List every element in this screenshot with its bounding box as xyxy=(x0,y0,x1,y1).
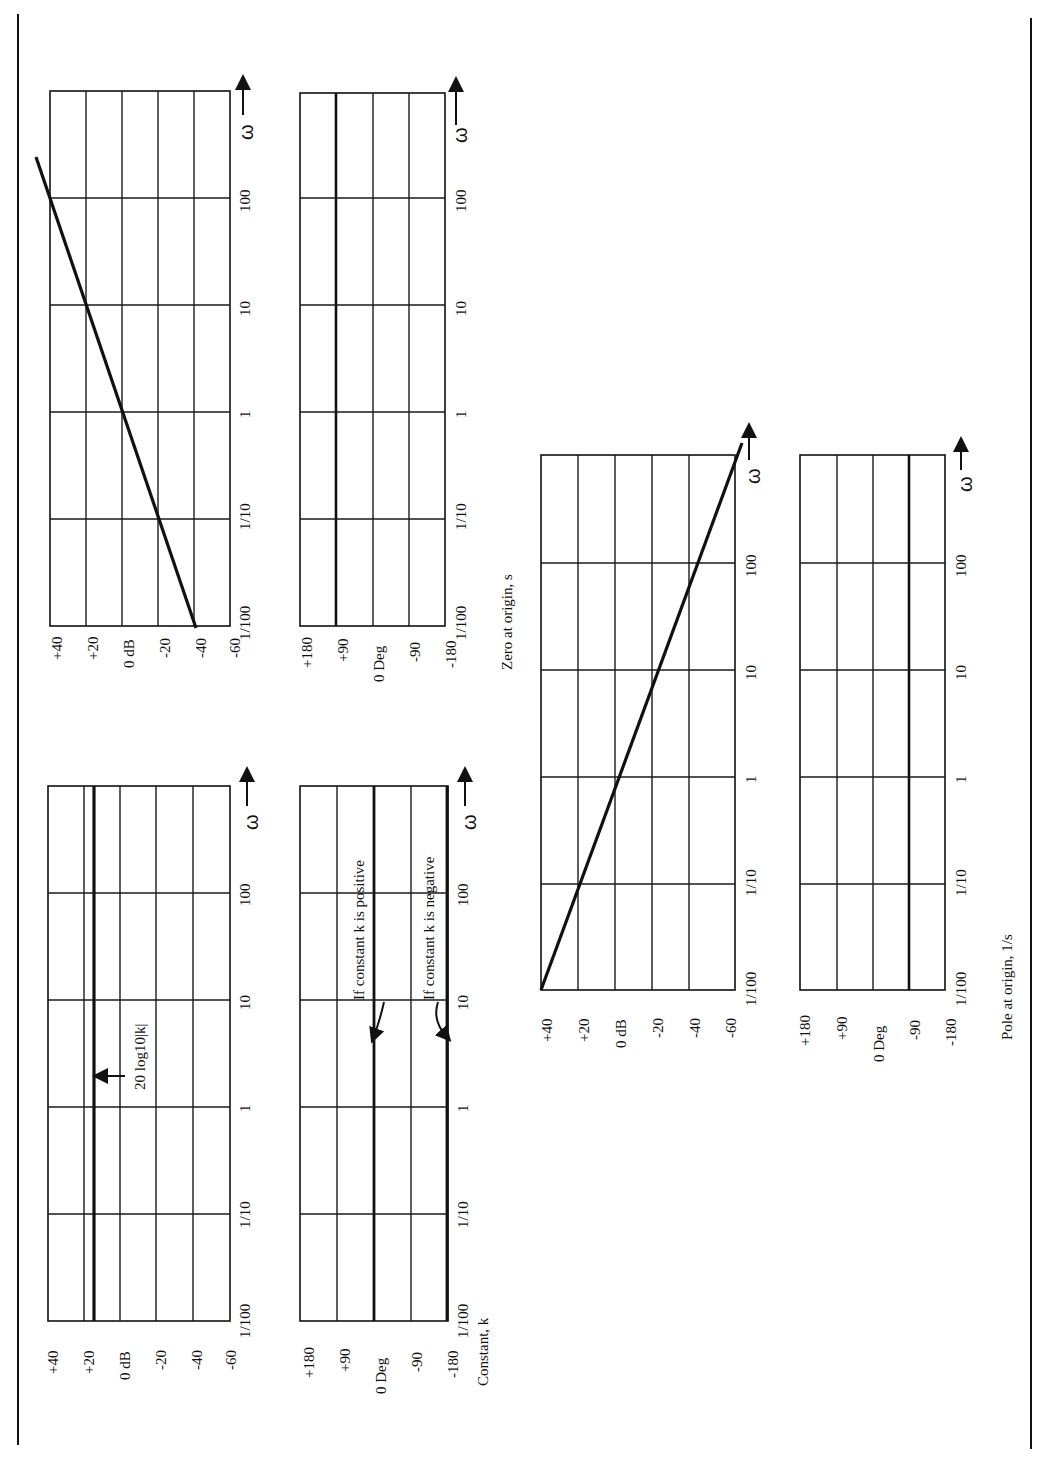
svg-text:1/100: 1/100 xyxy=(237,1304,253,1338)
pole-at-origin-magnitude-plot xyxy=(541,443,742,990)
omega-label: ω xyxy=(449,127,471,143)
svg-text:100: 100 xyxy=(453,190,469,213)
svg-text:-40: -40 xyxy=(687,1018,703,1038)
svg-text:+20: +20 xyxy=(85,637,101,660)
svg-text:1/100: 1/100 xyxy=(743,972,759,1006)
svg-text:1/100: 1/100 xyxy=(237,606,253,640)
svg-text:1: 1 xyxy=(237,1105,253,1113)
pole-at-origin-freq-ticks-phase: 1/100 1/10 1 10 100 xyxy=(953,555,969,1007)
svg-text:100: 100 xyxy=(237,190,253,213)
zero-at-origin-magnitude-plot xyxy=(36,91,230,628)
constant-k-mag-annotation: 20 log10|k| xyxy=(100,1024,148,1090)
svg-text:0 dB: 0 dB xyxy=(121,639,137,668)
svg-text:1: 1 xyxy=(453,411,469,419)
omega-label: ω xyxy=(742,468,764,484)
pole-at-origin-phase-plot xyxy=(800,455,945,990)
zero-at-origin-mag-ticks: +40 +20 0 dB -20 -40 -60 xyxy=(49,637,243,668)
pointer-arrow-icon xyxy=(374,1002,384,1036)
bode-plot-figure: +40 +20 0 dB -20 -40 -60 +180 +90 0 Deg … xyxy=(0,0,1060,1469)
svg-text:1: 1 xyxy=(237,411,253,419)
svg-text:100: 100 xyxy=(237,884,253,907)
pole-at-origin-mag-ticks: +40 +20 0 dB -20 -40 -60 xyxy=(539,1018,739,1048)
svg-text:-40: -40 xyxy=(189,1350,205,1370)
constant-k-phase-annotations: If constant k is positive If constant k … xyxy=(351,856,446,1036)
svg-text:1: 1 xyxy=(455,1105,471,1113)
magnitude-curve xyxy=(541,443,742,990)
pole-at-origin-phase-ticks: +180 +90 0 Deg -90 -180 xyxy=(797,1015,959,1062)
svg-text:0 Deg: 0 Deg xyxy=(373,1357,389,1394)
svg-text:1: 1 xyxy=(743,776,759,784)
svg-text:-60: -60 xyxy=(223,1350,239,1370)
annotation-k-negative: If constant k is negative xyxy=(421,856,437,1000)
svg-text:-20: -20 xyxy=(153,1350,169,1370)
svg-text:+40: +40 xyxy=(49,637,65,660)
svg-text:+180: +180 xyxy=(797,1015,813,1046)
svg-text:100: 100 xyxy=(953,555,969,578)
svg-text:-40: -40 xyxy=(193,638,209,658)
svg-text:0 dB: 0 dB xyxy=(613,1019,629,1048)
omega-label: ω xyxy=(240,814,262,830)
svg-text:1/10: 1/10 xyxy=(953,869,969,896)
zero-at-origin-freq-ticks-mag: 1/100 1/10 1 10 100 xyxy=(237,190,253,641)
svg-text:-90: -90 xyxy=(407,642,423,662)
svg-text:-20: -20 xyxy=(650,1018,666,1038)
svg-text:1/10: 1/10 xyxy=(743,869,759,896)
magnitude-curve xyxy=(36,157,196,628)
zero-at-origin-freq-ticks-phase: 1/100 1/10 1 10 100 xyxy=(453,190,469,641)
pointer-arrow-icon xyxy=(436,1002,446,1036)
omega-label: ω xyxy=(235,124,257,140)
svg-text:+90: +90 xyxy=(337,1349,353,1372)
svg-text:+20: +20 xyxy=(576,1019,592,1042)
svg-text:-90: -90 xyxy=(409,1352,425,1372)
svg-text:+20: +20 xyxy=(81,1351,97,1374)
svg-text:-60: -60 xyxy=(227,638,243,658)
pole-at-origin-caption: Pole at origin, 1/s xyxy=(999,934,1015,1040)
svg-text:1/100: 1/100 xyxy=(953,972,969,1006)
svg-text:-20: -20 xyxy=(157,638,173,658)
svg-text:+90: +90 xyxy=(834,1017,850,1040)
svg-text:-180: -180 xyxy=(445,1351,461,1379)
constant-k-freq-ticks-mag: 1/100 1/10 1 10 100 xyxy=(237,884,253,1339)
svg-text:+180: +180 xyxy=(299,637,315,668)
svg-text:+180: +180 xyxy=(301,1347,317,1378)
constant-k-mag-ticks: +40 +20 0 dB -20 -40 -60 xyxy=(45,1350,239,1380)
zero-at-origin-caption: Zero at origin, s xyxy=(499,574,515,670)
svg-text:-90: -90 xyxy=(907,1020,923,1040)
annotation-k-positive: If constant k is positive xyxy=(351,860,367,1000)
svg-text:10: 10 xyxy=(237,301,253,316)
zero-at-origin-phase-plot xyxy=(300,93,445,626)
svg-text:-60: -60 xyxy=(723,1018,739,1038)
svg-text:0 Deg: 0 Deg xyxy=(871,1025,887,1062)
constant-k-freq-ticks-phase: 1/100 1/10 1 10 100 xyxy=(455,884,471,1339)
pole-at-origin-freq-ticks-mag: 1/100 1/10 1 10 100 xyxy=(743,555,759,1007)
svg-text:10: 10 xyxy=(237,995,253,1010)
svg-text:10: 10 xyxy=(743,665,759,680)
omega-label: ω xyxy=(458,814,480,830)
svg-text:100: 100 xyxy=(455,884,471,907)
svg-text:10: 10 xyxy=(953,665,969,680)
svg-text:+40: +40 xyxy=(539,1019,555,1042)
svg-text:0 dB: 0 dB xyxy=(117,1351,133,1380)
svg-text:1/100: 1/100 xyxy=(453,606,469,640)
zero-at-origin-phase-ticks: +180 +90 0 Deg -90 -180 xyxy=(299,637,459,682)
svg-text:1/10: 1/10 xyxy=(237,1201,253,1228)
svg-text:0 Deg: 0 Deg xyxy=(371,645,387,682)
constant-k-caption: Constant, k xyxy=(475,1317,491,1386)
svg-text:+40: +40 xyxy=(45,1351,61,1374)
annotation-20log-k: 20 log10|k| xyxy=(132,1024,148,1090)
svg-text:+90: +90 xyxy=(335,639,351,662)
svg-text:1/10: 1/10 xyxy=(453,503,469,530)
svg-text:10: 10 xyxy=(455,995,471,1010)
svg-text:100: 100 xyxy=(743,555,759,578)
svg-text:10: 10 xyxy=(453,301,469,316)
svg-text:1/10: 1/10 xyxy=(237,503,253,530)
svg-text:-180: -180 xyxy=(943,1019,959,1047)
svg-text:1: 1 xyxy=(953,776,969,784)
svg-text:-180: -180 xyxy=(443,641,459,669)
constant-k-phase-ticks: +180 +90 0 Deg -90 -180 xyxy=(301,1347,461,1394)
svg-text:1/10: 1/10 xyxy=(455,1201,471,1228)
svg-text:1/100: 1/100 xyxy=(455,1304,471,1338)
omega-label: ω xyxy=(954,476,976,492)
